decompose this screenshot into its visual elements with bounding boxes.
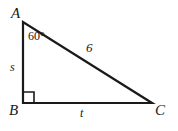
- triangle-drawing: [0, 0, 178, 131]
- vertex-label-b: B: [9, 103, 18, 118]
- side-label-s: s: [10, 61, 15, 73]
- side-label-hypotenuse: 6: [86, 41, 93, 54]
- vertex-label-a: A: [11, 6, 20, 21]
- side-label-t: t: [80, 107, 83, 119]
- angle-label-a: 60°: [28, 30, 45, 42]
- triangle-figure: A B C 60° s 6 t: [0, 0, 178, 131]
- right-angle-marker-icon: [23, 92, 34, 103]
- vertex-label-c: C: [155, 103, 165, 118]
